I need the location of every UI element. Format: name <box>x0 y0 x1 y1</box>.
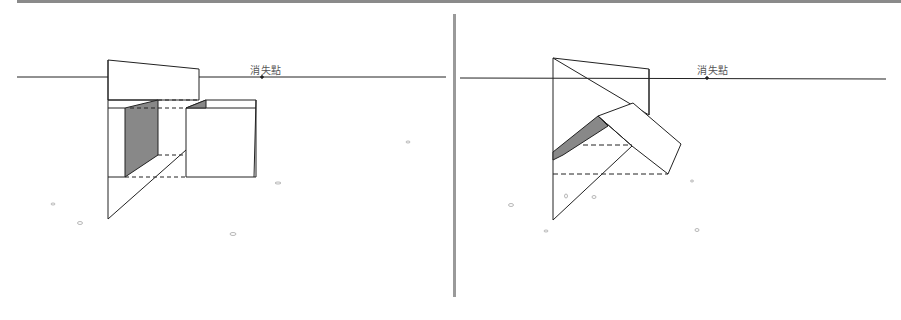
right-panel <box>460 58 886 220</box>
right-horizon-line <box>460 78 886 79</box>
left-vanishing-point-label: 消失點 <box>250 62 282 77</box>
left-panel <box>17 60 446 219</box>
left-picture-plane-top <box>108 60 199 100</box>
right-picture-plane-diagonal <box>553 146 632 220</box>
right-roof-prism <box>598 103 681 174</box>
perspective-drawing <box>0 0 901 320</box>
right-vanishing-point <box>706 77 709 80</box>
right-shaded-face <box>553 116 608 160</box>
left-shaded-face <box>125 100 158 177</box>
left-box <box>186 100 256 177</box>
right-vanishing-point-label: 消失點 <box>697 62 729 77</box>
